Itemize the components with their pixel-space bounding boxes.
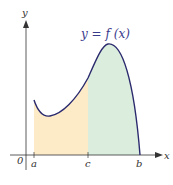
tick-label-c: c <box>85 158 91 169</box>
x-axis-arrow-icon <box>155 152 163 158</box>
origin-label: 0 <box>17 155 24 166</box>
tick-label-a: a <box>31 158 37 169</box>
area-under-curve-diagram: y x 0 a c b y = f (x) <box>0 0 173 185</box>
x-axis-label: x <box>164 150 170 161</box>
tick-label-b: b <box>136 158 142 169</box>
y-axis-arrow-icon <box>23 20 29 28</box>
curve-label: y = f (x) <box>80 27 130 41</box>
y-axis-label: y <box>21 7 28 18</box>
